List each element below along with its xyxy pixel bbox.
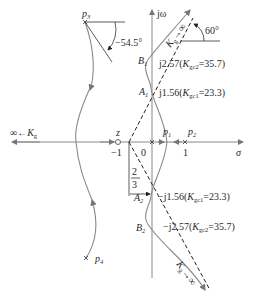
centroid-den: 3 — [132, 179, 137, 190]
pole-p3-label: p3 — [81, 8, 91, 20]
locus-branch-p4 — [86, 200, 96, 258]
departure-angle-label: −54.5° — [115, 37, 142, 48]
point-A1-value: j1.56(Kgc1=23.3) — [158, 87, 225, 99]
zero-value-label: −1 — [111, 147, 122, 158]
pole-p4-label: p4 — [94, 253, 104, 265]
pole-p2-label: p2 — [187, 126, 197, 138]
point-B2-value: −j2.57(Kgc2=35.7) — [163, 221, 235, 233]
locus-branch-lower — [146, 142, 205, 290]
point-B2-label: B2 — [136, 222, 146, 234]
pole-p2-value: 1 — [183, 147, 188, 158]
zero-marker — [116, 140, 121, 145]
asymptote-angle-label: 60° — [205, 25, 219, 36]
pole-p1-label: p1 — [162, 126, 171, 138]
imaginary-axis-label: jω — [156, 8, 167, 19]
centroid-num: 2 — [132, 166, 137, 177]
real-axis-label: σ — [236, 147, 242, 158]
locus-branch-p3-lower — [76, 88, 92, 200]
zero-label: z — [115, 127, 120, 138]
gain-upper-label: Kg→∞ — [162, 21, 189, 51]
root-locus-diagram: σ jω 0 60° −54.5° 2 3 z −1 p1 — [0, 0, 253, 302]
point-A1-label: A1 — [138, 86, 148, 98]
point-B1-label: B1 — [138, 55, 147, 67]
origin-label: 0 — [141, 147, 146, 158]
pole-p4-marker — [84, 256, 88, 260]
point-B1-value: j2.57(Kgc2=35.7) — [158, 58, 225, 70]
gain-left-label: ∞←Kg — [10, 127, 38, 139]
point-A2-value: −j1.56(Kgc1=23.3) — [158, 191, 230, 203]
